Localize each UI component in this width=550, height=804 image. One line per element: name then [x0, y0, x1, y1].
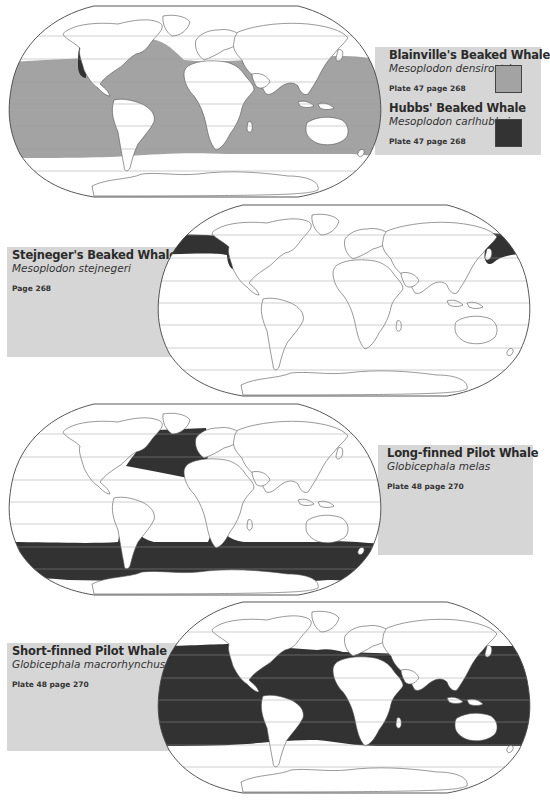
- species-common-name: Stejneger's Beaked Whale: [12, 249, 177, 262]
- plate-reference: Plate 48 page 270: [387, 482, 538, 492]
- range-map-stejnegers: [157, 203, 533, 399]
- species-latin-name: Globicephala melas: [387, 460, 538, 473]
- world-map: [8, 4, 384, 200]
- species-latin-name: Mesoplodon stejnegeri: [12, 262, 177, 275]
- plate-reference: Page 268: [12, 284, 177, 294]
- species-common-name: Blainville's Beaked Whale: [389, 49, 550, 62]
- species-latin-name: Globicephala macrorhynchus: [12, 658, 167, 671]
- plate-reference: Plate 48 page 270: [12, 680, 167, 690]
- species-common-name: Long-finned Pilot Whale: [387, 447, 538, 460]
- species-latin-name: Mesoplodon densirostris: [389, 62, 550, 75]
- legend-swatch-light: [495, 65, 522, 93]
- species-common-name: Hubbs' Beaked Whale: [389, 102, 526, 115]
- legend-swatch-dark: [495, 119, 522, 147]
- species-panel-1: Blainville's Beaked Whale Mesoplodon den…: [375, 47, 541, 155]
- range-map-short-finned-pilot: [157, 600, 533, 796]
- range-map-long-finned-pilot: [8, 402, 384, 598]
- world-map: [157, 600, 533, 796]
- species-panel-4: Short-finned Pilot Whale Globicephala ma…: [7, 643, 182, 751]
- plate-reference: Plate 47 page 268: [389, 84, 550, 94]
- range-map-blainvilles-hubbs: [8, 4, 384, 200]
- world-map: [8, 402, 384, 598]
- species-panel-2: Stejneger's Beaked Whale Mesoplodon stej…: [7, 247, 182, 357]
- world-map: [157, 203, 533, 399]
- species-common-name: Short-finned Pilot Whale: [12, 645, 167, 658]
- species-panel-3: Long-finned Pilot Whale Globicephala mel…: [378, 445, 533, 555]
